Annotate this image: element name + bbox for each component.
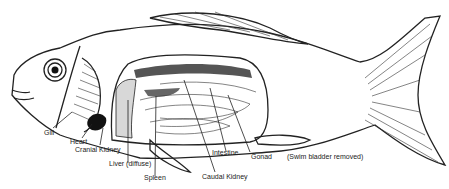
label-gill: Gill — [44, 129, 54, 137]
spleen — [144, 88, 180, 97]
liver — [116, 79, 136, 138]
label-spleen: Spleen — [144, 174, 166, 182]
heart — [87, 114, 106, 131]
label-caudal-kidney: Caudal Kidney — [202, 173, 248, 181]
label-liver: Liver (diffuse) — [109, 160, 151, 168]
label-heart: Heart — [70, 138, 87, 146]
anal-fin — [255, 135, 310, 145]
dorsal-fin-rays — [160, 12, 288, 40]
label-cranial-kidney: Cranial Kidney — [75, 146, 121, 154]
label-gonad: Gonad — [251, 153, 272, 161]
tail-fin-rays — [365, 24, 438, 162]
label-intestine: Intestine — [212, 149, 238, 157]
swim-bladder-wall — [134, 64, 252, 78]
label-swim-bladder-note: (Swim bladder removed) — [287, 153, 363, 161]
fish-diagram — [0, 0, 449, 189]
mouth — [12, 90, 34, 100]
